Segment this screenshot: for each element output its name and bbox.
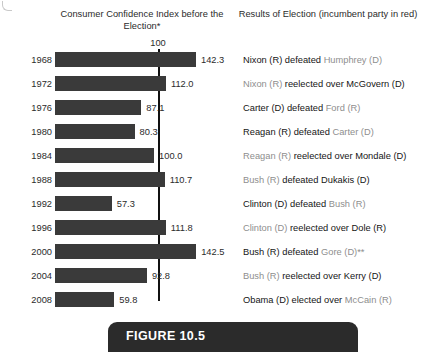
confidence-bar [55,52,196,67]
confidence-bar [55,268,147,283]
result-main-text: reelected over Dole (R) [290,223,386,233]
incumbent-party-text: Reagan (R) [243,151,294,161]
bar-value-label: 111.8 [171,223,193,233]
row-year-label: 1984 [0,151,52,161]
row-year-label: 1988 [0,175,52,185]
bar-value-label: 59.8 [119,295,137,305]
result-main-text: reelected over Mondale (D) [294,151,407,161]
result-main-text: Clinton (D) defeated [243,199,329,209]
election-result-text: Bush (R) defeated Gore (D)** [243,247,364,257]
column-headers: Consumer Confidence Index before the Ele… [0,0,430,40]
row-year-label: 1992 [0,199,52,209]
chart-row: 1996111.8Clinton (D) reelected over Dole… [0,217,430,241]
confidence-bar [55,196,112,211]
chart-column-header: Consumer Confidence Index before the Ele… [52,8,232,33]
figure-caption-label: FIGURE 10.5 [126,329,205,343]
row-year-label: 2000 [0,247,52,257]
election-result-text: Bush (R) reelected over Kerry (D) [243,271,381,281]
incumbent-party-text: McCain (R) [345,295,392,305]
election-result-text: Reagan (R) defeated Carter (D) [243,127,374,137]
bar-value-label: 100.0 [159,151,182,161]
result-main-text: Reagan (R) defeated [243,127,332,137]
bar-value-label: 112.0 [171,79,194,89]
bar-value-label: 92.8 [152,271,170,281]
incumbent-party-text: Ford (R) [326,103,361,113]
bar-value-label: 110.7 [170,175,193,185]
chart-row: 199257.3Clinton (D) defeated Bush (R) [0,193,430,217]
chart-row: 200859.8Obama (D) elected over McCain (R… [0,289,430,313]
bar-value-label: 142.5 [201,247,224,257]
result-main-text: reelected over McGovern (D) [285,79,405,89]
incumbent-party-text: Humphrey (D) [324,55,382,65]
election-result-text: Nixon (R) reelected over McGovern (D) [243,79,405,89]
row-year-label: 1976 [0,103,52,113]
figure-caption-banner: FIGURE 10.5 [108,322,358,352]
confidence-bar [55,244,196,259]
row-year-label: 1980 [0,127,52,137]
bar-value-label: 80.3 [140,127,158,137]
election-result-text: Clinton (D) defeated Bush (R) [243,199,365,209]
result-main-text: Carter (D) defeated [243,103,326,113]
bar-value-label: 142.3 [201,55,224,65]
election-result-text: Bush (R) defeated Dukakis (D) [243,175,370,185]
chart-row: 1968142.3Nixon (R) defeated Humphrey (D) [0,49,430,73]
incumbent-party-text: Bush (R) [243,175,282,185]
results-column-header: Results of Election (incumbent party in … [228,8,428,20]
row-year-label: 1972 [0,79,52,89]
incumbent-party-text: Gore (D)** [321,247,364,257]
confidence-bar [55,100,141,115]
election-result-text: Carter (D) defeated Ford (R) [243,103,360,113]
reference-line-label: 100 [143,38,173,48]
incumbent-party-text: Bush (R) [243,271,282,281]
result-main-text: Obama (D) elected over [243,295,345,305]
chart-row: 1988110.7Bush (R) defeated Dukakis (D) [0,169,430,193]
election-result-text: Clinton (D) reelected over Dole (R) [243,223,386,233]
row-year-label: 2004 [0,271,52,281]
chart-row: 197687.1Carter (D) defeated Ford (R) [0,97,430,121]
row-year-label: 2008 [0,295,52,305]
bar-value-label: 87.1 [146,103,164,113]
result-main-text: defeated Dukakis (D) [282,175,369,185]
chart-row: 1984100.0Reagan (R) reelected over Monda… [0,145,430,169]
chart-row: 1972112.0Nixon (R) reelected over McGove… [0,73,430,97]
confidence-bar [55,172,165,187]
bar-value-label: 57.3 [117,199,135,209]
election-result-text: Reagan (R) reelected over Mondale (D) [243,151,406,161]
chart-row: 2000142.5Bush (R) defeated Gore (D)** [0,241,430,265]
election-result-text: Obama (D) elected over McCain (R) [243,295,392,305]
election-confidence-chart: 100 1968142.3Nixon (R) defeated Humphrey… [0,38,430,306]
confidence-bar [55,76,166,91]
confidence-bar [55,220,166,235]
row-year-label: 1996 [0,223,52,233]
confidence-bar [55,124,135,139]
result-main-text: Bush (R) defeated [243,247,321,257]
incumbent-party-text: Clinton (D) [243,223,290,233]
incumbent-party-text: Carter (D) [332,127,373,137]
row-year-label: 1968 [0,55,52,65]
confidence-bar [55,148,154,163]
incumbent-party-text: Bush (R) [329,199,366,209]
confidence-bar [55,292,114,307]
result-main-text: Nixon (R) defeated [243,55,324,65]
incumbent-party-text: Nixon (R) [243,79,285,89]
chart-row: 200492.8Bush (R) reelected over Kerry (D… [0,265,430,289]
result-main-text: reelected over Kerry (D) [282,271,381,281]
chart-rows: 1968142.3Nixon (R) defeated Humphrey (D)… [0,49,430,313]
chart-row: 198080.3Reagan (R) defeated Carter (D) [0,121,430,145]
election-result-text: Nixon (R) defeated Humphrey (D) [243,55,382,65]
